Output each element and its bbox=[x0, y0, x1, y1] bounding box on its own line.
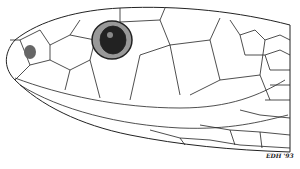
mouth-line bbox=[15, 78, 285, 108]
nostril-icon bbox=[24, 45, 36, 59]
body-scales bbox=[150, 20, 290, 148]
artist-signature: EDH '93 bbox=[266, 152, 294, 159]
pupil bbox=[100, 26, 126, 54]
head-outline bbox=[6, 7, 290, 152]
eye-highlight bbox=[107, 32, 113, 38]
snake-head-illustration bbox=[0, 0, 300, 169]
labial-line bbox=[20, 85, 288, 128]
